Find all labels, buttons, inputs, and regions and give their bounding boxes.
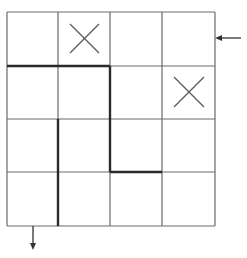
cell-r0-c3[interactable] [162,12,215,66]
cell-r3-c2[interactable] [110,172,162,226]
cell-r2-c0[interactable] [7,119,58,172]
cell-r3-c0[interactable] [7,172,58,226]
cell-r2-c3[interactable] [162,119,215,172]
cell-r2-c1[interactable] [58,119,110,172]
cell-r3-c3[interactable] [162,172,215,226]
arrow-down-icon [30,226,36,250]
cell-r3-c1[interactable] [58,172,110,226]
arrow-left-icon [215,35,241,41]
cell-r0-c0[interactable] [7,12,58,66]
cell-r1-c1[interactable] [58,66,110,119]
cell-r2-c2[interactable] [110,119,162,172]
cell-r0-c2[interactable] [110,12,162,66]
cell-r1-c2[interactable] [110,66,162,119]
maze-puzzle [0,0,247,258]
cell-r1-c0[interactable] [7,66,58,119]
